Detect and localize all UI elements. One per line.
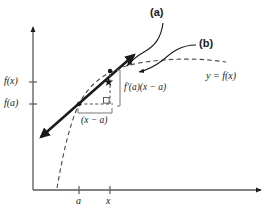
rise-brace-group	[117, 70, 120, 106]
point-tangent-at-x-marker	[108, 69, 112, 73]
callout-b-arrow	[139, 45, 196, 72]
point-a-marker	[77, 102, 81, 106]
rise-expression-label: f′(a)(x − a)	[124, 83, 166, 93]
x-axis-label-x: x	[106, 196, 110, 206]
rise-brace	[117, 70, 120, 106]
run-expression-label: (x − a)	[81, 116, 107, 126]
curve-equation-label: y = f(x)	[206, 71, 236, 81]
run-brace-group	[78, 108, 112, 113]
callout-a-arrow	[127, 23, 163, 66]
callout-a-label: (a)	[150, 7, 163, 18]
diagram-canvas	[0, 0, 269, 211]
y-axis-label-fa: f(a)	[4, 98, 18, 108]
y-axis-label-fx: f(x)	[4, 76, 18, 86]
callout-b-label: (b)	[199, 38, 213, 49]
right-angle-marker	[104, 98, 110, 104]
run-brace	[78, 108, 112, 113]
callout-arrows-group	[127, 23, 196, 72]
figure-container: f(x) f(a) a x f′(a)(x − a) (x − a) y = f…	[0, 0, 269, 211]
x-axis-label-a: a	[76, 196, 81, 206]
